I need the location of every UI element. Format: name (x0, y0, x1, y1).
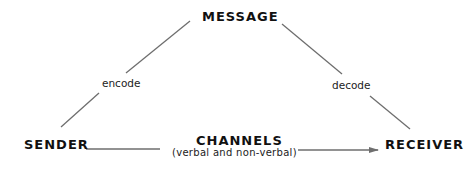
decode-line-upper (282, 24, 342, 74)
decode-label: decode (332, 79, 370, 91)
sender-node: SENDER (24, 137, 89, 152)
encode-label: encode (102, 77, 140, 89)
channels-node: CHANNELS (196, 133, 283, 148)
decode-line-lower (370, 96, 410, 129)
channels-subtitle: (verbal and non-verbal) (172, 147, 297, 158)
message-node: MESSAGE (202, 9, 279, 24)
encode-line-lower (61, 93, 99, 127)
receiver-node: RECEIVER (385, 137, 464, 152)
encode-line-upper (126, 21, 190, 73)
